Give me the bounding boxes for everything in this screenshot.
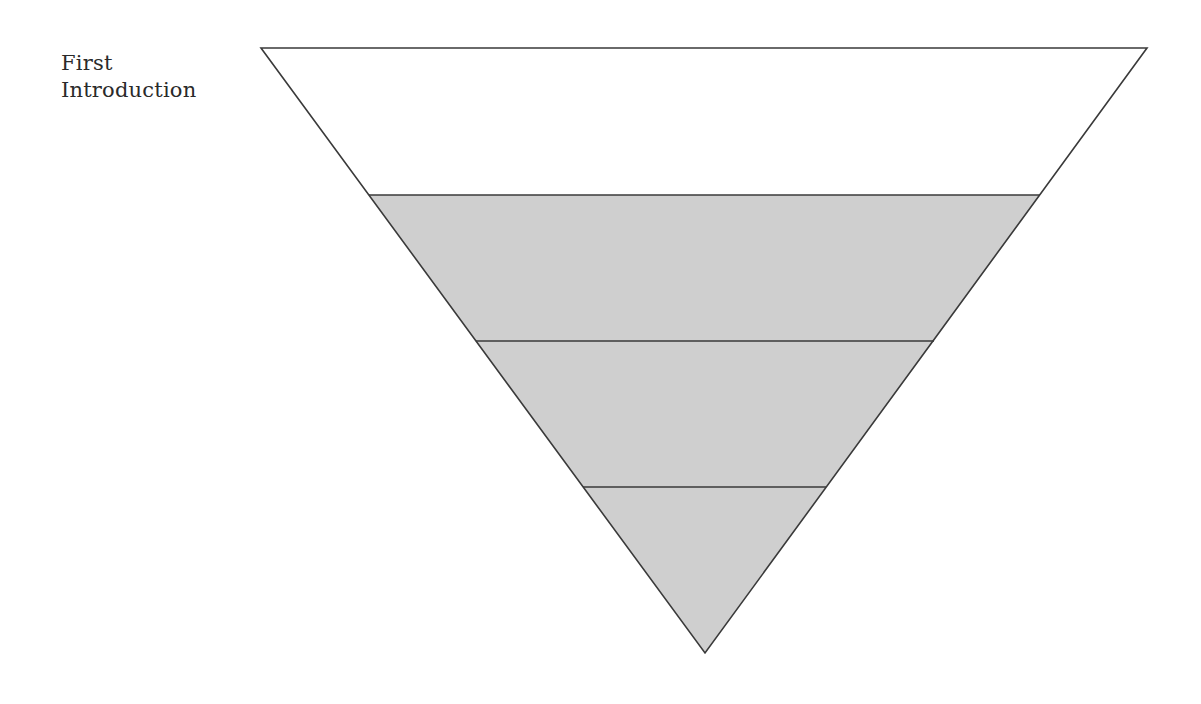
funnel-band-1 — [261, 48, 1147, 195]
funnel-band-4 — [583, 487, 826, 653]
funnel-band-3 — [476, 341, 934, 487]
inverted-triangle-funnel — [0, 0, 1201, 704]
funnel-band-2 — [369, 195, 1040, 341]
